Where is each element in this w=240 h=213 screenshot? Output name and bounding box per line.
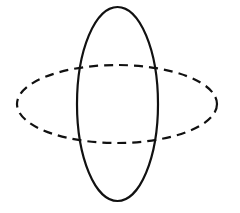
diagram-canvas [0, 0, 240, 213]
solid-vertical-ellipse [77, 7, 158, 201]
dashed-horizontal-ellipse [17, 65, 217, 143]
ellipses-diagram [0, 0, 240, 213]
